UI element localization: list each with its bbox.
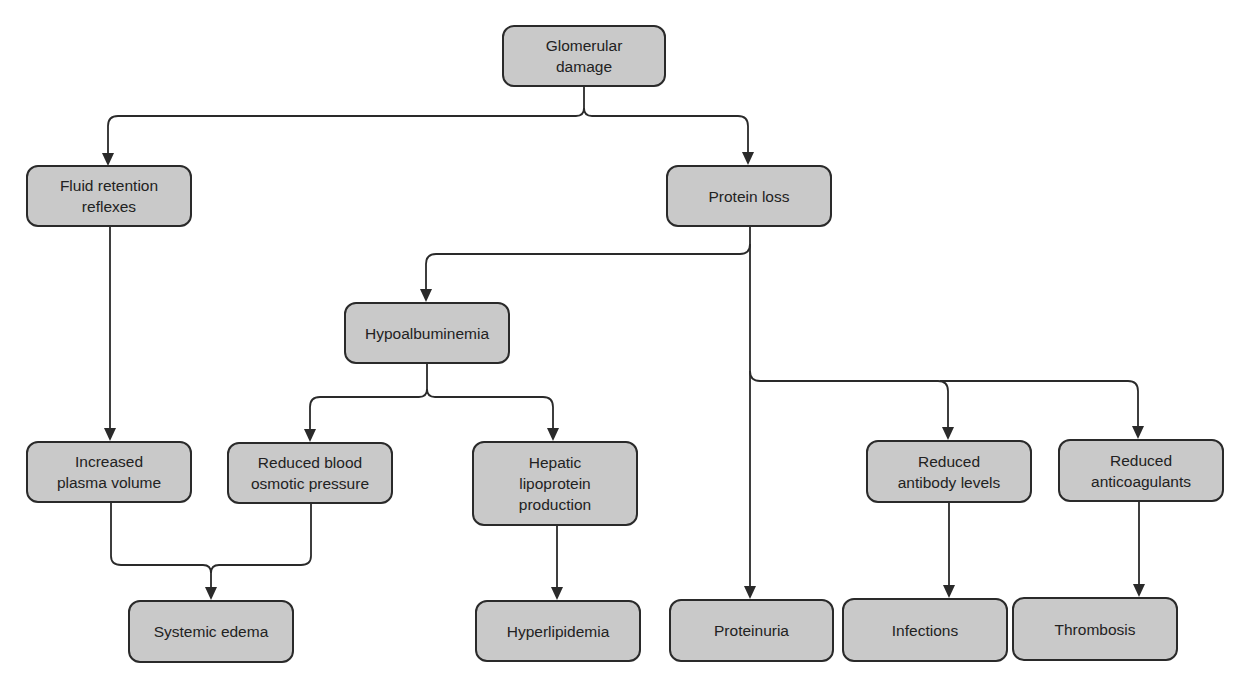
node-label: Protein loss: [709, 186, 790, 207]
node-label: Glomerular damage: [546, 35, 623, 77]
node-label: Reduced anticoagulants: [1091, 450, 1191, 492]
node-increased-plasma-volume: Increased plasma volume: [26, 441, 192, 503]
node-reduced-antibody-levels: Reduced antibody levels: [866, 440, 1032, 503]
node-label: Hypoalbuminemia: [365, 323, 489, 344]
node-protein-loss: Protein loss: [666, 165, 832, 227]
node-glomerular-damage: Glomerular damage: [502, 25, 666, 87]
node-reduced-blood-osmotic-pressure: Reduced blood osmotic pressure: [227, 442, 393, 504]
node-infections: Infections: [842, 598, 1008, 662]
node-hepatic-lipoprotein-production: Hepatic lipoprotein production: [472, 441, 638, 526]
node-fluid-retention-reflexes: Fluid retention reflexes: [26, 165, 192, 227]
node-label: Systemic edema: [154, 621, 269, 642]
node-systemic-edema: Systemic edema: [128, 600, 294, 663]
node-thrombosis: Thrombosis: [1012, 597, 1178, 661]
connector-lines: [0, 0, 1253, 690]
flowchart-diagram: Glomerular damage Fluid retention reflex…: [0, 0, 1253, 690]
node-label: Hyperlipidemia: [507, 621, 610, 642]
node-label: Infections: [892, 620, 958, 641]
node-label: Hepatic lipoprotein production: [519, 452, 591, 515]
node-label: Reduced antibody levels: [898, 451, 1001, 493]
node-hypoalbuminemia: Hypoalbuminemia: [344, 302, 510, 364]
node-label: Fluid retention reflexes: [60, 175, 158, 217]
node-label: Increased plasma volume: [57, 451, 161, 493]
node-hyperlipidemia: Hyperlipidemia: [475, 600, 641, 662]
node-label: Thrombosis: [1055, 619, 1136, 640]
node-label: Proteinuria: [714, 620, 789, 641]
node-reduced-anticoagulants: Reduced anticoagulants: [1058, 439, 1224, 502]
node-label: Reduced blood osmotic pressure: [251, 452, 369, 494]
node-proteinuria: Proteinuria: [669, 599, 834, 662]
